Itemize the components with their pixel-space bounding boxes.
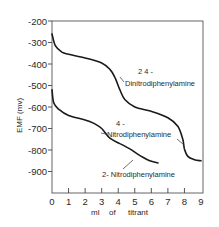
x-tick-label: 8 — [182, 196, 187, 207]
curve-2-4-dinitrodiphenylamine — [52, 34, 201, 161]
label-dinitro-prefix: 2 4 - — [138, 67, 154, 76]
x-tick-label: 7 — [165, 196, 170, 207]
x-tick-label: 9 — [198, 196, 203, 207]
x-tick-label: 1 — [66, 196, 71, 207]
y-axis: -200-300-400-500-600-700-800-900 — [28, 16, 52, 178]
label-dinitro-name: Dinitrodiphenylamine — [125, 79, 195, 88]
x-tick-label: 2 — [82, 196, 87, 207]
y-tick-label: -300 — [28, 37, 47, 48]
x-axis-title-of: of — [109, 208, 116, 217]
label-4-nitro-name: Nitrodiphenylamine — [107, 130, 171, 139]
plot-frame — [52, 21, 203, 193]
y-tick-label: -700 — [28, 123, 47, 134]
x-axis: 0123456789 — [49, 188, 203, 207]
y-tick-label: -600 — [28, 102, 47, 113]
y-tick-label: -400 — [28, 59, 47, 70]
label-2-nitro: 2- Nitrodiphenylamine — [102, 170, 175, 179]
titration-chart: -200-300-400-500-600-700-800-900 0123456… — [0, 0, 219, 227]
x-tick-label: 4 — [116, 196, 121, 207]
leader-2-nitro — [123, 160, 133, 169]
x-axis-title-ml: ml — [91, 208, 100, 217]
x-tick-label: 0 — [49, 196, 54, 207]
y-tick-label: -500 — [28, 80, 47, 91]
x-tick-label: 3 — [99, 196, 104, 207]
y-tick-label: -800 — [28, 145, 47, 156]
y-tick-label: -900 — [28, 166, 47, 177]
x-axis-title-titrant: titrant — [128, 208, 149, 217]
x-tick-label: 5 — [132, 196, 137, 207]
curve-2-nitrodiphenylamine — [52, 90, 158, 163]
x-tick-label: 6 — [149, 196, 154, 207]
leader-dinitro — [120, 77, 124, 82]
y-axis-title: EMF (mv) — [15, 98, 24, 133]
label-4-nitro-prefix: 4 - — [116, 119, 125, 128]
y-tick-label: -200 — [28, 16, 47, 27]
